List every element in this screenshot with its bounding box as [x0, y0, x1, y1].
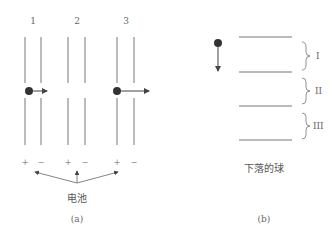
- sign-minus: −: [38, 158, 45, 167]
- ball-1: [25, 87, 33, 95]
- panel-b: I II III 下落的球 (b): [214, 37, 324, 224]
- braces: [302, 42, 310, 139]
- level-lines: [239, 37, 292, 140]
- column-label-2: 2: [74, 16, 80, 26]
- region-label-1: I: [316, 51, 320, 61]
- caption-a: (a): [71, 214, 83, 224]
- battery-label: 电池: [67, 192, 87, 204]
- falling-ball: [214, 39, 222, 47]
- ball-label: 下落的球: [244, 162, 284, 174]
- sign-plus: +: [114, 158, 121, 167]
- column-label-1: 1: [30, 16, 36, 26]
- sign-plus: +: [22, 158, 29, 167]
- sign-minus: −: [131, 158, 138, 167]
- battery-pointer-arrows: [35, 171, 118, 183]
- ball-3: [113, 87, 121, 95]
- caption-b: (b): [258, 214, 271, 224]
- diagram-canvas: 1 2 3 + − + − + − 电池 (a): [0, 0, 332, 237]
- sign-plus: +: [65, 158, 72, 167]
- panel-a: 1 2 3 + − + − + − 电池 (a): [22, 16, 149, 224]
- sign-minus: −: [82, 158, 89, 167]
- region-label-3: III: [313, 121, 324, 131]
- region-label-2: II: [315, 86, 323, 96]
- column-label-3: 3: [123, 16, 129, 26]
